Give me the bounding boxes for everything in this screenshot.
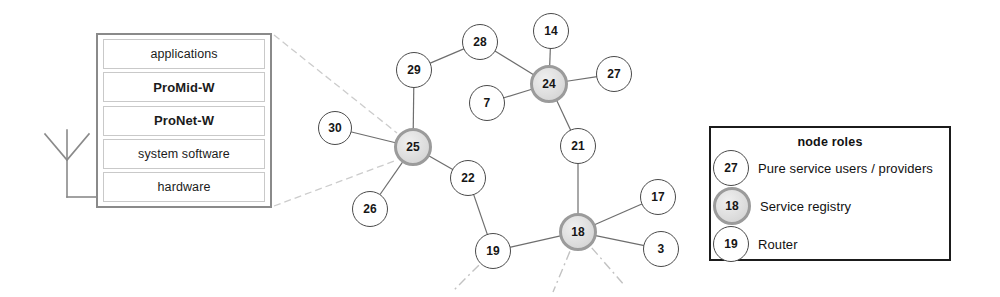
legend-node-sample-19: 19: [713, 226, 749, 262]
edge-28-24: [495, 51, 534, 75]
graph-node-19[interactable]: 19: [475, 233, 511, 269]
graph-node-7[interactable]: 7: [469, 85, 505, 121]
edge-25-26: [380, 162, 403, 195]
edge-22-19: [474, 194, 488, 235]
edge-7-24: [503, 89, 532, 98]
legend-title: node roles: [711, 135, 949, 149]
graph-node-29[interactable]: 29: [396, 52, 432, 88]
edge-18-3: [596, 236, 645, 246]
edge-29-25: [413, 87, 414, 129]
edge-18-17: [594, 204, 642, 225]
legend-row-19: 19Router: [711, 225, 949, 263]
graph-node-28[interactable]: 28: [462, 24, 498, 60]
graph-node-17[interactable]: 17: [640, 179, 676, 215]
edge-19-18: [510, 236, 561, 247]
edge-24-21: [557, 100, 571, 130]
legend-label-27: Pure service users / providers: [758, 161, 933, 176]
graph-node-14[interactable]: 14: [533, 13, 569, 49]
legend-box: node roles 27Pure service users / provid…: [709, 126, 951, 261]
legend-node-sample-27: 27: [713, 150, 749, 186]
graph-node-22[interactable]: 22: [450, 160, 486, 196]
trailing-edge-18-1: [553, 251, 570, 292]
legend-rows: 27Pure service users / providers18Servic…: [711, 149, 949, 263]
legend-row-18: 18Service registry: [711, 187, 949, 225]
graph-node-18[interactable]: 18: [559, 213, 597, 251]
edge-29-28: [430, 49, 465, 64]
edge-14-24: [550, 48, 551, 66]
graph-node-25[interactable]: 25: [394, 128, 432, 166]
trailing-edge-18-2: [592, 248, 625, 286]
graph-node-3[interactable]: 3: [643, 231, 679, 267]
legend-label-18: Service registry: [760, 199, 851, 214]
graph-node-27[interactable]: 27: [596, 56, 632, 92]
legend-row-27: 27Pure service users / providers: [711, 149, 949, 187]
graph-node-24[interactable]: 24: [530, 65, 568, 103]
diagram-canvas: applicationsProMid-WProNet-Wsystem softw…: [0, 0, 1000, 297]
edge-27-24: [567, 77, 597, 82]
graph-node-30[interactable]: 30: [318, 111, 352, 145]
graph-node-21[interactable]: 21: [560, 128, 596, 164]
legend-label-19: Router: [758, 237, 798, 252]
legend-node-sample-18: 18: [713, 187, 751, 225]
edge-25-22: [429, 156, 454, 170]
edge-30-25: [351, 132, 396, 143]
trailing-edge-19-0: [452, 265, 479, 292]
graph-node-26[interactable]: 26: [352, 191, 388, 227]
